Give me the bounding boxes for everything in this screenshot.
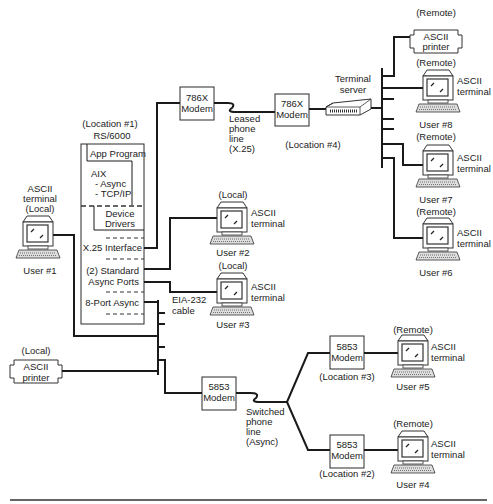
network-diagram: (Location #1) RS/6000 App Program AIX - … bbox=[0, 0, 493, 504]
user5-qualifier: (Remote) bbox=[393, 324, 433, 335]
terminal-icon bbox=[416, 145, 460, 187]
modem-loc3-location: (Location #3) bbox=[319, 371, 374, 382]
std-async-label-1: (2) Standard bbox=[86, 265, 139, 276]
local-printer-qualifier: (Local) bbox=[21, 345, 50, 356]
switched-line4: (Async) bbox=[246, 436, 278, 447]
location4-label: (Location #4) bbox=[285, 139, 340, 150]
rs6000-system: (Location #1) RS/6000 App Program AIX - … bbox=[81, 118, 146, 324]
x25-link bbox=[144, 103, 180, 248]
user7-qualifier: (Remote) bbox=[416, 131, 456, 142]
local-printer-line1: ASCII bbox=[24, 361, 49, 372]
modem-786x-b-line2: Modem bbox=[276, 109, 308, 120]
user8-terminal: (Remote) ASCII terminal User #8 bbox=[416, 57, 491, 130]
user7-label: User #7 bbox=[419, 194, 452, 205]
user3-terminal: (Local) ASCII terminal User #3 bbox=[210, 260, 285, 330]
branch-loc2 bbox=[287, 402, 330, 450]
user5-label: User #5 bbox=[396, 381, 429, 392]
terminal-icon bbox=[16, 216, 60, 258]
user5-line2: terminal bbox=[431, 352, 465, 363]
user8-label: User #8 bbox=[419, 119, 452, 130]
local-printer: (Local) ASCII printer bbox=[10, 345, 62, 383]
remote-printer: (Remote) ASCII printer bbox=[410, 7, 462, 53]
terminal-icon bbox=[391, 335, 435, 377]
user8-line2: terminal bbox=[457, 86, 491, 97]
modem-786x-b: 786X Modem bbox=[275, 94, 309, 126]
user2-cable bbox=[144, 218, 217, 269]
modem-loc2-line2: Modem bbox=[331, 450, 363, 461]
x25-interface-label: X.25 Interface bbox=[83, 242, 142, 253]
user1-label: User #1 bbox=[23, 265, 56, 276]
user4-label: User #4 bbox=[396, 479, 429, 490]
cable-line1: EIA-232 bbox=[172, 294, 206, 305]
user6-line2: terminal bbox=[457, 238, 491, 249]
user2-qualifier: (Local) bbox=[218, 189, 247, 200]
modem-786x-a-line2: Modem bbox=[181, 103, 213, 114]
device-drivers-label-2: Drivers bbox=[105, 218, 135, 229]
eia232-label: EIA-232 cable bbox=[172, 294, 206, 316]
cable-line2: cable bbox=[172, 305, 195, 316]
user5-line1: ASCII bbox=[431, 341, 456, 352]
app-program-label: App Program bbox=[90, 148, 146, 159]
switched-line-label: Switched phone line (Async) bbox=[246, 406, 285, 447]
terminal-icon bbox=[210, 202, 254, 244]
terminal-server-line1: Terminal bbox=[335, 73, 371, 84]
eight-port-async-label: 8-Port Async bbox=[85, 297, 139, 308]
user4-qualifier: (Remote) bbox=[393, 418, 433, 429]
user5-terminal: (Remote) ASCII terminal User #5 bbox=[391, 324, 465, 392]
user1-terminal: ASCII terminal (Local) User #1 bbox=[16, 183, 60, 276]
user2-label: User #2 bbox=[216, 247, 249, 258]
leased-line4: (X.25) bbox=[229, 143, 255, 154]
user2-terminal: (Local) ASCII terminal User #2 bbox=[210, 189, 285, 258]
terminal-icon bbox=[416, 70, 460, 112]
user8-qualifier: (Remote) bbox=[416, 57, 456, 68]
remote-printer-qualifier: (Remote) bbox=[416, 7, 456, 18]
local-printer-line2: printer bbox=[23, 372, 50, 383]
std-async-label-2: Async Ports bbox=[88, 276, 139, 287]
terminal-icon bbox=[210, 273, 254, 315]
rs6000-title: RS/6000 bbox=[94, 130, 131, 141]
aix-tcpip-label: - TCP/IP bbox=[95, 188, 131, 199]
terminal-icon bbox=[391, 431, 435, 473]
modem-786x-a-line1: 786X bbox=[186, 92, 209, 103]
user3-cable bbox=[144, 282, 217, 292]
switched-line bbox=[236, 393, 287, 402]
modem-loc2-line1: 5853 bbox=[336, 439, 357, 450]
user6-label: User #6 bbox=[419, 267, 452, 278]
modem-786x-b-line1: 786X bbox=[281, 98, 304, 109]
user3-line2: terminal bbox=[251, 292, 285, 303]
user7-line1: ASCII bbox=[457, 152, 482, 163]
leased-line bbox=[214, 103, 275, 112]
user4-line2: terminal bbox=[431, 449, 465, 460]
terminal-server: Terminal server bbox=[326, 73, 371, 115]
user7-line2: terminal bbox=[457, 163, 491, 174]
user2-line1: ASCII bbox=[251, 207, 276, 218]
rs6000-location: (Location #1) bbox=[82, 118, 137, 129]
terminal-icon bbox=[416, 218, 460, 260]
user4-line1: ASCII bbox=[431, 438, 456, 449]
terminal-server-line2: server bbox=[340, 84, 366, 95]
remote-printer-line2: printer bbox=[423, 41, 450, 52]
modem-5853-main-line2: Modem bbox=[203, 392, 235, 403]
user3-label: User #3 bbox=[216, 319, 249, 330]
modem-loc3-line2: Modem bbox=[331, 352, 363, 363]
user6-line1: ASCII bbox=[457, 227, 482, 238]
user8-line1: ASCII bbox=[457, 75, 482, 86]
modem-5853-loc2: 5853 Modem (Location #2) bbox=[319, 435, 374, 479]
user7-terminal: (Remote) ASCII terminal User #7 bbox=[416, 131, 491, 205]
modem-5853-main: 5853 Modem bbox=[202, 377, 236, 410]
modem-loc2-location: (Location #2) bbox=[319, 468, 374, 479]
modem-5853-loc3: 5853 Modem (Location #3) bbox=[319, 336, 374, 382]
user6-qualifier: (Remote) bbox=[416, 206, 456, 217]
user1-line3: (Local) bbox=[25, 203, 54, 214]
modem-loc3-line1: 5853 bbox=[336, 341, 357, 352]
leased-line-label: Leased phone line (X.25) bbox=[229, 113, 260, 154]
modem-5853-main-line1: 5853 bbox=[208, 381, 229, 392]
user3-qualifier: (Local) bbox=[218, 260, 247, 271]
modem-786x-a: 786X Modem bbox=[180, 87, 214, 120]
user3-line1: ASCII bbox=[251, 281, 276, 292]
user2-line2: terminal bbox=[251, 218, 285, 229]
user6-terminal: (Remote) ASCII terminal User #6 bbox=[416, 206, 491, 278]
user4-terminal: (Remote) ASCII terminal User #4 bbox=[391, 418, 465, 490]
